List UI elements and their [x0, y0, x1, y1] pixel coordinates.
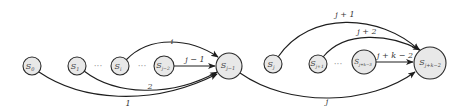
node-subscript: j+k−3: [358, 62, 372, 67]
node-sj-minus-2: Sj−2: [154, 56, 174, 76]
node-sj-plus-1: Sj+1: [309, 55, 327, 73]
ellipsis: ···: [334, 59, 343, 69]
node-subscript: j−2: [161, 66, 170, 71]
state-transition-diagram: 1 2 i j − 1 j j + 1 j + 2 j + k − 2 ··· …: [0, 0, 467, 112]
edge-label: j − 1: [183, 55, 204, 64]
node-sj-minus-1: Sj−1: [216, 53, 242, 79]
edge-label: i: [171, 37, 174, 46]
edge-label: j + k − 2: [375, 51, 413, 60]
node-s0: S0: [23, 57, 41, 75]
edge-label: 1: [125, 99, 130, 108]
node-si: Si: [111, 57, 129, 75]
node-sj-plus-k-minus-2: Sj+k−2: [414, 47, 446, 79]
node-subscript: j−1: [225, 65, 235, 72]
edge-label: 2: [146, 82, 152, 91]
node-subscript: j+k−2: [424, 62, 441, 69]
ellipsis: ···: [138, 61, 147, 71]
edge-sj1-to-sjk2: [240, 72, 415, 98]
node-sj-plus-k-minus-3: Sj+k−3: [352, 50, 376, 74]
node-subscript: j+1: [315, 64, 324, 69]
edge-label: j + 2: [355, 27, 376, 36]
edge-label: j + 1: [333, 10, 354, 19]
ellipsis: ···: [94, 61, 103, 71]
edge-s0-to-sj1: [39, 72, 217, 96]
node-subscript: j: [272, 64, 275, 71]
node-s1: S1: [68, 57, 86, 75]
node-sj: Sj: [264, 55, 282, 73]
node-subscript: 1: [76, 66, 79, 72]
